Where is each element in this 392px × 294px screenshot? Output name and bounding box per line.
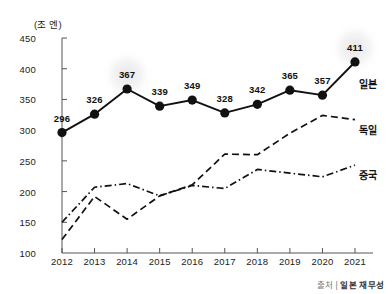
x-axis-tick-label: 2019 [279, 256, 301, 267]
data-point-value-label: 349 [184, 80, 200, 91]
x-axis-tick-label: 2018 [246, 256, 268, 267]
x-axis-tick-label: 2017 [214, 256, 236, 267]
source-text: 일본 재무성 [340, 280, 384, 290]
series-label-japan: 일본 [359, 76, 377, 91]
y-axis-tick-label: 150 [0, 217, 36, 228]
series-label-germany: 독일 [359, 122, 377, 137]
x-axis-tick-label: 2014 [116, 256, 138, 267]
y-axis-tick-label: 250 [0, 155, 36, 166]
data-point-value-label: 296 [54, 113, 70, 124]
y-axis-tick-label: 400 [0, 63, 36, 74]
data-point-value-label: 328 [217, 93, 233, 104]
x-axis-tick-label: 2013 [84, 256, 106, 267]
series-label-china: 중국 [359, 167, 377, 182]
y-axis-tick-label: 300 [0, 125, 36, 136]
y-axis-tick-label: 200 [0, 186, 36, 197]
line-chart: (조 엔) 450400350300250200150100 201220132… [0, 0, 392, 294]
x-axis-tick-label: 2020 [311, 256, 333, 267]
y-axis-tick-label: 100 [0, 248, 36, 259]
y-axis-tick-label: 450 [0, 33, 36, 44]
plot-area [0, 0, 392, 294]
data-point-value-label: 342 [249, 84, 265, 95]
source-attribution: 출처 | 일본 재무성 [317, 278, 385, 290]
x-axis-tick-label: 2012 [51, 256, 73, 267]
data-point-value-label: 411 [347, 42, 363, 53]
x-axis-tick-label: 2021 [344, 256, 366, 267]
data-point-value-label: 365 [282, 70, 298, 81]
data-point-value-label: 367 [119, 69, 135, 80]
y-axis-tick-label: 350 [0, 94, 36, 105]
data-point-value-label: 339 [151, 86, 167, 97]
source-prefix: 출처 | [317, 280, 338, 290]
x-axis-tick-label: 2016 [181, 256, 203, 267]
highlight-glow-layer [101, 22, 381, 101]
data-point-value-label: 357 [314, 75, 330, 86]
data-point-value-label: 326 [86, 94, 102, 105]
x-axis-tick-label: 2015 [149, 256, 171, 267]
